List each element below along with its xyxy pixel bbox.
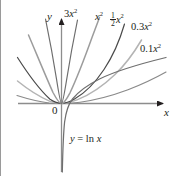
curve-x2 bbox=[29, 18, 100, 104]
curve-label-lnx-var: x bbox=[97, 133, 102, 144]
curve-label-half-x2: 1 2 x2 bbox=[110, 12, 124, 29]
function-comparison-figure: y x 0 3x2 x2 1 2 x2 0.3x2 0.1x2 y = ln x bbox=[0, 0, 179, 176]
y-axis-label: y bbox=[47, 11, 52, 22]
curve-label-0_3x2-coef: 0.3 bbox=[131, 21, 144, 32]
curve-label-lnx: y = ln x bbox=[70, 134, 101, 145]
fraction-numerator: 1 bbox=[110, 12, 116, 20]
curve-label-lnx-lhs: y bbox=[70, 133, 75, 144]
curve-label-0_3x2: 0.3x2 bbox=[131, 22, 152, 33]
x-axis-label: x bbox=[164, 107, 169, 118]
curve-label-x2: x2 bbox=[95, 12, 103, 23]
curve-label-0_3x2-exp: 2 bbox=[149, 20, 152, 27]
curve-label-lnx-eq: = bbox=[77, 133, 83, 144]
curve-label-3x2: 3x2 bbox=[64, 9, 77, 20]
plot-canvas bbox=[0, 0, 179, 176]
origin-label: 0 bbox=[52, 105, 58, 116]
curve-label-half-x2-exp: 2 bbox=[121, 12, 124, 19]
curve-label-x2-exp: 2 bbox=[100, 10, 103, 17]
curve-group bbox=[17, 18, 166, 173]
curve-label-3x2-exp: 2 bbox=[74, 7, 77, 14]
curve-label-lnx-rhs: ln bbox=[86, 133, 94, 144]
curve-label-0_1x2-exp: 2 bbox=[158, 42, 161, 49]
left-border-rule bbox=[0, 0, 1, 176]
fraction-denominator: 2 bbox=[110, 19, 116, 28]
curve-label-0_1x2: 0.1x2 bbox=[140, 44, 161, 55]
fraction-one-half: 1 2 bbox=[110, 12, 116, 29]
curve-label-0_1x2-coef: 0.1 bbox=[140, 43, 153, 54]
